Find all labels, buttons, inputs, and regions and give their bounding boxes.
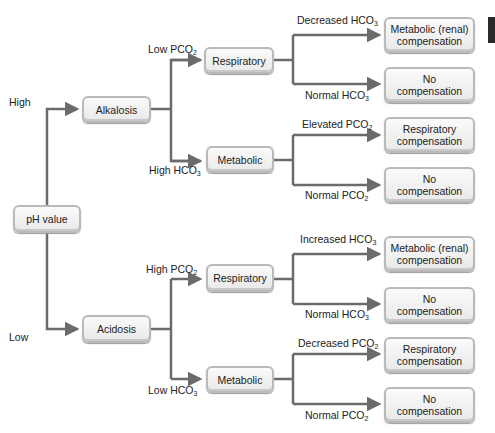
outcome-alk-met-none: No compensation <box>384 167 475 203</box>
acid-met-bottom-label: Normal PCO2 <box>305 409 368 425</box>
outcome-label: Metabolic (renal) compensation <box>390 242 468 266</box>
outcome-alk-met-resp: Respiratory compensation <box>384 117 475 153</box>
high-label: High <box>9 96 31 108</box>
acid-metabolic-node: Metabolic <box>206 366 274 393</box>
acid-resp-bottom-label: Normal HCO3 <box>305 308 369 324</box>
alk-resp-bottom-label: Normal HCO3 <box>305 89 369 105</box>
alk-respiratory-node: Respiratory <box>204 47 274 74</box>
outcome-acid-met-none: No compensation <box>384 387 475 423</box>
acid-high-pco2-label: High PCO2 <box>146 263 197 279</box>
alk-met-bottom-label: Normal PCO2 <box>305 189 368 205</box>
outcome-acid-resp-renal: Metabolic (renal) compensation <box>384 236 475 272</box>
alkalosis-label: Alkalosis <box>96 104 137 116</box>
alk-high-hco3-label: High HCO3 <box>149 164 201 180</box>
outcome-label: No compensation <box>397 173 462 197</box>
alk-low-pco2-label: Low PCO2 <box>148 43 197 59</box>
outcome-label: Respiratory compensation <box>397 123 462 147</box>
acid-respiratory-label: Respiratory <box>213 272 267 284</box>
alk-metabolic-label: Metabolic <box>218 154 263 166</box>
outcome-label: Respiratory compensation <box>397 343 462 367</box>
outcome-label: No compensation <box>397 73 462 97</box>
alkalosis-node: Alkalosis <box>82 96 151 123</box>
outcome-label: No compensation <box>397 293 462 317</box>
outcome-acid-met-resp: Respiratory compensation <box>384 337 475 373</box>
acidosis-label: Acidosis <box>97 323 136 335</box>
alk-met-top-label: Elevated PCO2 <box>302 118 372 134</box>
low-label: Low <box>9 331 28 343</box>
acid-low-hco3-label: Low HCO3 <box>148 384 197 400</box>
side-tab <box>488 17 495 43</box>
alk-resp-top-label: Decreased HCO3 <box>297 14 378 30</box>
outcome-alk-resp-renal: Metabolic (renal) compensation <box>384 17 475 53</box>
ph-value-label: pH value <box>26 213 67 225</box>
acid-respiratory-node: Respiratory <box>206 264 274 292</box>
acid-met-top-label: Decreased PCO2 <box>298 337 378 353</box>
acidosis-node: Acidosis <box>82 315 151 343</box>
alk-respiratory-label: Respiratory <box>212 55 266 67</box>
outcome-alk-resp-none: No compensation <box>384 67 475 103</box>
alk-metabolic-node: Metabolic <box>206 146 274 173</box>
outcome-label: No compensation <box>397 393 462 417</box>
outcome-label: Metabolic (renal) compensation <box>390 23 468 47</box>
ph-value-node: pH value <box>13 205 81 233</box>
outcome-acid-resp-none: No compensation <box>384 287 475 323</box>
acid-metabolic-label: Metabolic <box>218 374 263 386</box>
acid-resp-top-label: Increased HCO3 <box>300 233 376 249</box>
